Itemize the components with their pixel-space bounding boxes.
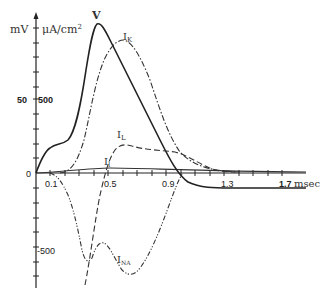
y-tick-500: 500 [38,95,53,105]
y-tick-minus-500: -500 [37,246,55,256]
curve-label-i-l: Il [104,156,111,169]
curve-label-i-k: IK [123,31,133,44]
y-axis-arrow [34,12,39,19]
y-tick-0: 0 [26,169,31,179]
y-tick-50: 50 [17,95,27,105]
x-tick-0-5: 0.5 [104,179,117,189]
y-left-unit-label: mV [10,23,29,36]
x-tick-0-1: 0.1 [45,179,58,189]
curve-label-i-L: IL [117,129,126,142]
y-right-unit-label: μA/cm2 [42,23,82,36]
curve-i-l-small [36,168,306,173]
ionic-current-chart: mV μA/cm2 50 500 0 -500 0.1 0.5 0.9 1.3 … [0,0,329,298]
curve-label-i-na: INA [117,254,131,266]
curve-v [36,24,306,188]
x-tick-0-9: 0.9 [162,179,175,189]
curve-label-v: V [91,9,101,22]
